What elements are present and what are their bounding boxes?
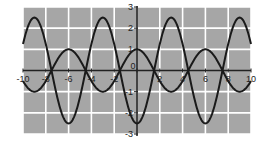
- x-tick-label: -10: [16, 74, 29, 84]
- x-tick-label: 4: [180, 74, 185, 84]
- y-tick-label: 3: [128, 2, 133, 12]
- x-tick-label: 8: [226, 74, 231, 84]
- y-tick-label: -2: [125, 108, 133, 118]
- x-tick-label: 10: [246, 74, 256, 84]
- x-tick-label: -8: [42, 74, 50, 84]
- x-tick-label: 0: [130, 61, 135, 71]
- y-tick-label: -1: [125, 87, 133, 97]
- y-tick-label: 1: [128, 44, 133, 54]
- x-tick-label: -4: [87, 74, 95, 84]
- y-tick-label: 2: [128, 23, 133, 33]
- x-tick-label: 2: [157, 74, 162, 84]
- x-tick-label: -6: [65, 74, 73, 84]
- y-tick-label: -3: [125, 129, 133, 139]
- function-graph: -10-8-6-4-20246810 -3-2-1123: [0, 0, 264, 145]
- x-tick-label: -2: [110, 74, 118, 84]
- x-tick-label: 6: [203, 74, 208, 84]
